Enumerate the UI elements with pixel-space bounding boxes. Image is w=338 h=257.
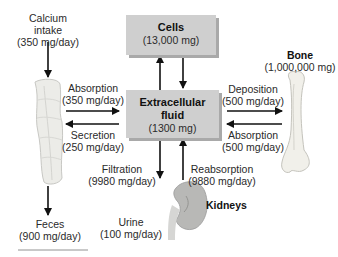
feces-label: Feces (900 mg/day) <box>10 218 90 242</box>
deposition-value: (500 mg/day) <box>222 95 284 107</box>
intake-text: Calcium <box>8 12 88 24</box>
gut-absorption-label: Absorption (350 mg/day) <box>62 82 124 106</box>
secretion-label: Secretion (250 mg/day) <box>62 129 124 153</box>
bone-text: Bone <box>262 49 338 61</box>
feces-text: Feces <box>10 218 90 230</box>
filtration-value: (9980 mg/day) <box>88 175 156 187</box>
bone-value: (1,000,000 mg) <box>262 61 338 73</box>
ecf-value: (1300 mg) <box>126 122 219 134</box>
cells-value: (13,000 mg) <box>126 34 216 46</box>
kidneys-label: Kidneys <box>206 199 247 211</box>
urine-label: Urine (100 mg/day) <box>96 216 166 240</box>
intestine-icon <box>35 79 63 184</box>
feces-value: (900 mg/day) <box>10 230 90 242</box>
reabsorption-label: Reabsorption (9880 mg/day) <box>186 163 258 187</box>
kidney-icon <box>168 182 207 240</box>
urine-value: (100 mg/day) <box>96 228 166 240</box>
reabsorption-value: (9880 mg/day) <box>186 175 258 187</box>
filtration-label: Filtration (9980 mg/day) <box>88 163 156 187</box>
urine-text: Urine <box>96 216 166 228</box>
bone-icon <box>282 71 310 172</box>
deposition-text: Deposition <box>222 83 284 95</box>
bone-label: Bone (1,000,000 mg) <box>262 49 338 73</box>
secretion-value: (250 mg/day) <box>62 141 124 153</box>
ecf-title-2: fluid <box>126 109 219 122</box>
cells-box: Cells (13,000 mg) <box>126 15 216 55</box>
bone-absorption-value: (500 mg/day) <box>222 141 284 153</box>
ecf-box: Extracellular fluid (1300 mg) <box>126 90 219 138</box>
gut-absorption-value: (350 mg/day) <box>62 94 124 106</box>
deposition-label: Deposition (500 mg/day) <box>222 83 284 107</box>
reabsorption-text: Reabsorption <box>186 163 258 175</box>
intake-value: (350 mg/day) <box>8 36 88 48</box>
bone-absorption-label: Absorption (500 mg/day) <box>222 129 284 153</box>
secretion-text: Secretion <box>62 129 124 141</box>
intake-label: Calcium intake (350 mg/day) <box>8 12 88 48</box>
filtration-text: Filtration <box>88 163 156 175</box>
gut-absorption-text: Absorption <box>62 82 124 94</box>
intake-text-2: intake <box>8 24 88 36</box>
cells-title: Cells <box>126 21 216 34</box>
ecf-title: Extracellular <box>126 96 219 109</box>
bone-absorption-text: Absorption <box>222 129 284 141</box>
